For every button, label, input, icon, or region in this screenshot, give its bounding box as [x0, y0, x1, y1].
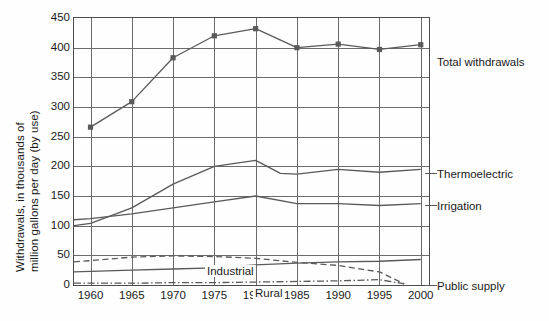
y-tick-50: 50	[40, 249, 70, 260]
series-line-rural	[74, 280, 404, 284]
public-supply-leader-line	[425, 285, 437, 286]
thermoelectric-leader-line	[425, 173, 437, 174]
series-label-public-supply: Public supply	[437, 280, 505, 292]
x-tick-1995: 1995	[357, 289, 401, 301]
marker-total-withdrawals-1980	[253, 26, 258, 31]
series-label-rural: Rural	[253, 287, 284, 299]
marker-total-withdrawals-1985	[294, 45, 299, 50]
x-tick-1975: 1975	[192, 289, 236, 301]
y-tick-350: 350	[40, 71, 70, 82]
y-tick-200: 200	[40, 160, 70, 171]
marker-total-withdrawals-2000	[418, 42, 423, 47]
data-series-lines	[74, 18, 429, 285]
x-tick-1965: 1965	[110, 289, 154, 301]
y-axis-tick-labels: 450400350300250200150100500	[38, 0, 70, 321]
plot-area	[73, 17, 430, 286]
y-tick-450: 450	[40, 12, 70, 23]
series-line-thermoelectric	[74, 160, 421, 225]
y-tick-300: 300	[40, 101, 70, 112]
series-label-irrigation: Irrigation	[437, 200, 482, 212]
series-label-thermoelectric: Thermoelectric	[437, 168, 513, 180]
y-tick-100: 100	[40, 220, 70, 231]
series-line-irrigation	[74, 196, 421, 220]
y-axis-title-line1: Withdrawals, in thousands of	[14, 122, 26, 272]
y-tick-150: 150	[40, 190, 70, 201]
series-label-industrial: Industrial	[205, 265, 256, 277]
x-tick-1960: 1960	[69, 289, 113, 301]
x-tick-1970: 1970	[151, 289, 195, 301]
marker-total-withdrawals-1965	[129, 99, 134, 104]
x-tick-1990: 1990	[316, 289, 360, 301]
marker-total-withdrawals-1995	[377, 47, 382, 52]
y-tick-400: 400	[40, 42, 70, 53]
marker-total-withdrawals-1975	[212, 33, 217, 38]
y-axis-title: Withdrawals, in thousands of million gal…	[0, 0, 38, 300]
irrigation-leader-line	[425, 205, 437, 206]
series-line-total-withdrawals	[91, 29, 421, 127]
marker-total-withdrawals-1990	[336, 42, 341, 47]
series-label-total-withdrawals: Total withdrawals	[437, 56, 525, 68]
water-withdrawals-line-chart: Withdrawals, in thousands of million gal…	[0, 0, 549, 321]
marker-total-withdrawals-1960	[88, 125, 93, 130]
y-tick-250: 250	[40, 131, 70, 142]
marker-total-withdrawals-1970	[170, 55, 175, 60]
